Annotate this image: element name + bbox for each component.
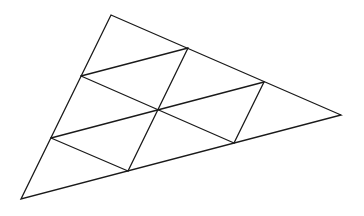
- grid-line-parallel-ab-2: [51, 138, 128, 171]
- grid-line-parallel-ac-2: [234, 82, 264, 143]
- grid-line-parallel-ab-1: [81, 76, 234, 143]
- triangle-diagram: [0, 0, 364, 216]
- outer-triangle: [21, 15, 341, 199]
- grid-line-parallel-cb-1: [81, 48, 188, 76]
